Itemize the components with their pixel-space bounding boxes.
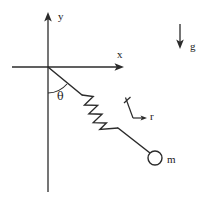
radial-vector-r bbox=[124, 97, 147, 121]
spring-coil bbox=[82, 95, 118, 129]
r-vector-label: r bbox=[150, 110, 154, 122]
rod-upper-segment bbox=[48, 67, 82, 95]
y-axis bbox=[44, 12, 52, 192]
diagram-canvas: y x θ r m g bbox=[0, 0, 205, 198]
gravity-label: g bbox=[190, 40, 196, 52]
theta-angle-label: θ bbox=[57, 90, 64, 103]
gravity-vector-g bbox=[176, 24, 184, 49]
x-axis-label: x bbox=[117, 48, 123, 60]
rod-lower-segment bbox=[118, 128, 150, 153]
mass-label: m bbox=[167, 153, 176, 165]
y-axis-label: y bbox=[58, 10, 64, 22]
mass-bob-circle bbox=[148, 151, 162, 165]
physics-diagram-figure: y x θ r m g bbox=[0, 0, 205, 198]
x-axis bbox=[12, 63, 124, 71]
